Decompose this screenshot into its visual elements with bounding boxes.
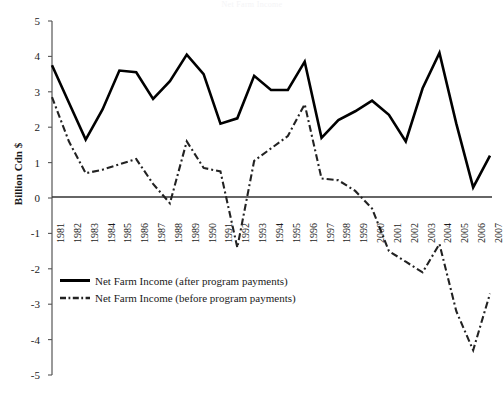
x-axis-tick-label: 1991 — [224, 223, 234, 243]
x-axis-tick-label: 2006 — [477, 223, 487, 243]
x-axis-tick-label: 2007 — [494, 223, 504, 243]
x-axis-tick-label: 1986 — [140, 223, 150, 243]
x-axis-tick-label: 1981 — [56, 223, 66, 243]
legend-item: Net Farm Income (after program payments) — [58, 272, 296, 289]
plot-area — [0, 0, 504, 395]
x-axis-tick-label: 1994 — [275, 223, 285, 243]
x-axis-tick-label: 1990 — [208, 223, 218, 243]
x-axis-tick-label: 1992 — [241, 223, 251, 243]
x-axis-tick-label: 2001 — [393, 223, 403, 243]
x-axis-tick-label: 1996 — [309, 223, 319, 243]
series-line-after-program-payments — [52, 53, 490, 188]
x-axis-tick-label: 1989 — [191, 223, 201, 243]
x-axis-tick-label: 2004 — [443, 223, 453, 243]
legend-item-label: Net Farm Income (after program payments) — [95, 275, 288, 287]
series-line-before-program-payments — [52, 97, 490, 350]
legend-dash-sample-icon — [58, 292, 92, 303]
x-axis-tick-label: 1997 — [326, 223, 336, 243]
x-axis-tick-label: 2002 — [410, 223, 420, 243]
x-axis-tick-label: 2000 — [376, 223, 386, 243]
legend-item-label: Net Farm Income (before program payments… — [95, 292, 296, 304]
legend-item: Net Farm Income (before program payments… — [58, 289, 296, 306]
x-axis-tick-label: 1995 — [292, 223, 302, 243]
legend-swatch-dashdot-icon — [58, 292, 92, 303]
x-axis-tick-label: 2005 — [460, 223, 470, 243]
x-axis-tick-label: 1982 — [73, 223, 83, 243]
x-axis-tick-label: 1988 — [174, 223, 184, 243]
x-axis-tick-label: 1998 — [342, 223, 352, 243]
x-axis-tick-label: 1993 — [258, 223, 268, 243]
x-axis-tick-label: 2003 — [427, 223, 437, 243]
x-axis-tick-label: 1983 — [90, 223, 100, 243]
x-axis-tick-label: 1999 — [359, 223, 369, 243]
chart-legend: Net Farm Income (after program payments)… — [58, 272, 296, 306]
x-axis-tick-label: 1987 — [157, 223, 167, 243]
x-axis-tick-label: 1985 — [123, 223, 133, 243]
legend-swatch-solid-icon — [58, 275, 92, 286]
chart-container: Net Farm Income Billion Cdn $ 543210-1-2… — [0, 0, 504, 395]
x-axis-tick-label: 1984 — [107, 223, 117, 243]
